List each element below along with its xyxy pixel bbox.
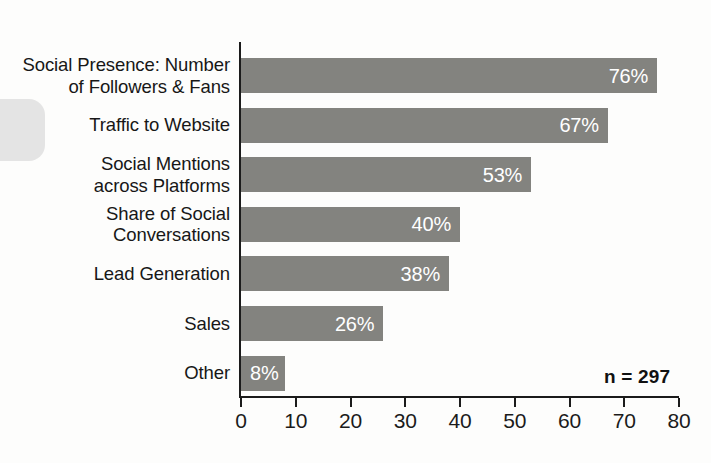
sample-size-note: n = 297 (604, 366, 670, 388)
x-axis-tick-label-50: 50 (485, 408, 545, 433)
bar-chart-figure: 01020304050607080 Social Presence: Numbe… (0, 0, 711, 463)
category-label-5: Sales (0, 313, 230, 335)
category-label-2: Social Mentions across Platforms (0, 153, 230, 196)
plot-area: 01020304050607080 Social Presence: Numbe… (0, 0, 711, 463)
x-axis-tick-70 (623, 398, 625, 407)
x-axis-tick-50 (514, 398, 516, 407)
bar-3[interactable]: 40% (241, 207, 460, 242)
bar-row: Traffic to Website67% (0, 108, 711, 143)
x-axis-tick-label-60: 60 (540, 408, 600, 433)
bar-value-label-1: 67% (550, 115, 607, 135)
category-label-3: Share of Social Conversations (0, 203, 230, 246)
bar-row: Social Mentions across Platforms53% (0, 157, 711, 192)
x-axis-tick-20 (350, 398, 352, 407)
category-label-0: Social Presence: Number of Followers & F… (0, 54, 230, 97)
category-label-1: Traffic to Website (0, 114, 230, 136)
bar-row: Social Presence: Number of Followers & F… (0, 58, 711, 93)
bar-value-label-0: 76% (600, 66, 657, 86)
x-axis-tick-label-40: 40 (430, 408, 490, 433)
bar-value-label-6: 8% (241, 363, 288, 383)
category-label-6: Other (0, 362, 230, 384)
bar-value-label-5: 26% (326, 314, 383, 334)
bar-5[interactable]: 26% (241, 306, 383, 341)
bar-row: Lead Generation38% (0, 256, 711, 291)
bar-value-label-2: 53% (474, 165, 531, 185)
x-axis-tick-80 (678, 398, 680, 407)
bar-row: Sales26% (0, 306, 711, 341)
bar-2[interactable]: 53% (241, 157, 531, 192)
x-axis-tick-label-20: 20 (321, 408, 381, 433)
bar-row: Share of Social Conversations40% (0, 207, 711, 242)
x-axis-tick-10 (295, 398, 297, 407)
x-axis-tick-label-80: 80 (649, 408, 709, 433)
bar-0[interactable]: 76% (241, 58, 657, 93)
x-axis-tick-30 (404, 398, 406, 407)
x-axis-tick-0 (240, 398, 242, 407)
x-axis-tick-label-70: 70 (594, 408, 654, 433)
bar-value-label-3: 40% (403, 214, 460, 234)
x-axis-tick-label-0: 0 (211, 408, 271, 433)
bar-6[interactable]: 8% (241, 356, 285, 391)
x-axis-tick-label-10: 10 (266, 408, 326, 433)
bar-1[interactable]: 67% (241, 108, 608, 143)
x-axis-tick-40 (459, 398, 461, 407)
x-axis-tick-label-30: 30 (375, 408, 435, 433)
category-label-4: Lead Generation (0, 263, 230, 285)
x-axis-tick-60 (569, 398, 571, 407)
bar-4[interactable]: 38% (241, 256, 449, 291)
bar-value-label-4: 38% (392, 264, 449, 284)
